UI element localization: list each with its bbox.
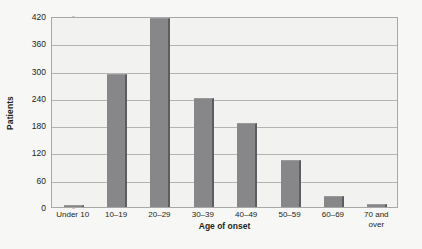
- y-axis-title: Patients: [5, 83, 15, 143]
- plot-area: [51, 17, 398, 208]
- bar: [107, 74, 127, 207]
- y-tick-label: 120: [24, 148, 46, 158]
- bar: [237, 123, 257, 207]
- bar: [367, 204, 387, 207]
- bar: [281, 160, 301, 207]
- bar: [194, 98, 214, 207]
- y-tick-label: 60: [24, 176, 46, 186]
- bar: [324, 196, 344, 207]
- y-tick-label: 180: [24, 121, 46, 131]
- y-tick-label: 360: [24, 39, 46, 49]
- bar-series: [52, 18, 397, 207]
- y-tick-label: 0: [24, 203, 46, 213]
- bar-chart: Patients 060120180240300360420 Under 101…: [0, 0, 422, 249]
- y-tick-label: 240: [24, 94, 46, 104]
- bar: [150, 18, 170, 207]
- y-tick-label: 420: [24, 12, 46, 22]
- x-axis-title: Age of onset: [51, 221, 398, 231]
- bar: [64, 205, 84, 207]
- y-axis-tick-labels: 060120180240300360420: [24, 17, 46, 208]
- y-tick-label: 300: [24, 67, 46, 77]
